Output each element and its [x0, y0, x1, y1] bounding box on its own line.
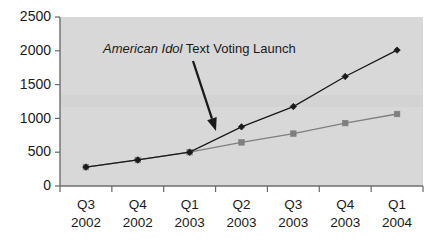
- y-tick-label: 1000: [20, 110, 51, 126]
- x-tick-label-year: 2003: [175, 215, 205, 230]
- x-tick-label-quarter: Q4: [129, 197, 148, 212]
- x-tick-label-year: 2003: [278, 215, 308, 230]
- y-tick-label: 2000: [20, 42, 51, 58]
- data-point-square: [291, 131, 297, 137]
- scan-band-artifact: [60, 95, 423, 107]
- y-axis-ticks: [55, 17, 60, 186]
- x-tick-label-year: 2002: [71, 215, 101, 230]
- x-axis-tick-labels: Q32002Q42002Q12003Q22003Q32003Q42003Q120…: [71, 197, 413, 230]
- data-point-square: [394, 111, 400, 117]
- x-axis-ticks: [60, 186, 423, 192]
- x-tick-label-year: 2003: [330, 215, 360, 230]
- chart-container: 05001000150020002500 Q32002Q42002Q12003Q…: [0, 0, 437, 240]
- data-point-square: [342, 120, 348, 126]
- line-chart: 05001000150020002500 Q32002Q42002Q12003Q…: [0, 0, 437, 240]
- x-tick-label-quarter: Q3: [77, 197, 95, 212]
- x-tick-label-quarter: Q4: [336, 197, 355, 212]
- y-tick-label: 1500: [20, 76, 51, 92]
- annotation-label: American Idol Text Voting Launch: [102, 41, 296, 56]
- y-tick-label: 0: [43, 177, 51, 193]
- x-tick-label-year: 2002: [123, 215, 153, 230]
- x-tick-label-quarter: Q1: [388, 197, 406, 212]
- data-point-square: [239, 140, 245, 146]
- x-tick-label-quarter: Q3: [284, 197, 302, 212]
- x-tick-label-quarter: Q2: [232, 197, 250, 212]
- x-tick-label-year: 2004: [382, 215, 413, 230]
- y-tick-label: 2500: [20, 8, 51, 24]
- x-tick-label-quarter: Q1: [181, 197, 199, 212]
- y-tick-label: 500: [28, 143, 52, 159]
- x-tick-label-year: 2003: [226, 215, 256, 230]
- y-axis-tick-labels: 05001000150020002500: [20, 8, 51, 193]
